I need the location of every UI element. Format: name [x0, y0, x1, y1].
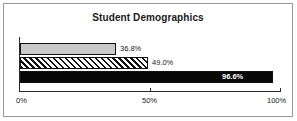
bar-value-label: 36.8%	[120, 43, 141, 55]
x-axis-label-0: 0%	[16, 96, 27, 105]
bar-row	[20, 43, 116, 55]
x-axis-tick-50	[150, 88, 151, 92]
x-axis-tick-0	[19, 88, 20, 92]
chart-border-frame: Student Demographics 36.8% 49.0% 96.6% 0…	[3, 3, 293, 117]
plot-area: 36.8% 49.0% 96.6%	[19, 37, 281, 92]
x-axis-tick-100	[280, 88, 281, 92]
bar-row	[20, 57, 148, 69]
x-axis-label-50: 50%	[142, 96, 157, 105]
bar-value-label: 49.0%	[152, 57, 173, 69]
x-axis-label-100: 100%	[267, 96, 286, 105]
bar-value-label: 96.6%	[222, 71, 243, 83]
chart-title: Student Demographics	[4, 12, 292, 23]
